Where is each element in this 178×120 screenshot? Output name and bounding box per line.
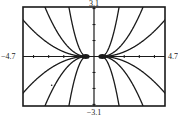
solution-curve xyxy=(18,57,86,99)
solution-curve xyxy=(102,0,121,56)
solution-curve xyxy=(18,14,86,56)
solution-curve xyxy=(102,14,170,56)
solution-curve xyxy=(102,57,121,113)
stray-point xyxy=(51,84,53,86)
solution-curve xyxy=(68,57,87,113)
solution-curve xyxy=(68,0,87,56)
solution-curve xyxy=(102,57,170,99)
graph-plot-area xyxy=(0,0,178,120)
axes xyxy=(23,7,165,106)
